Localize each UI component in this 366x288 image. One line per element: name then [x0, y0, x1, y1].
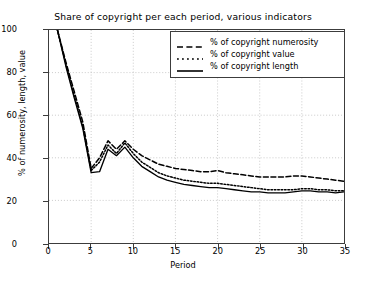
- y-tick-mark: [43, 158, 48, 159]
- y-tick-label: 100: [0, 24, 17, 34]
- x-tick-label: 25: [255, 246, 265, 256]
- y-tick-mark: [43, 201, 48, 202]
- y-tick-label: 20: [0, 196, 17, 206]
- legend-item-2: % of copyright length: [175, 60, 339, 72]
- legend-item-0: % of copyright numerosity: [175, 36, 339, 48]
- legend-label: % of copyright length: [210, 62, 298, 70]
- chart-figure: Share of copyright per each period, vari…: [0, 0, 366, 288]
- y-tick-mark: [43, 115, 48, 116]
- legend-swatch-dashed-icon: [175, 37, 205, 47]
- y-tick-label: 40: [0, 153, 17, 163]
- y-axis-label: % of numerosity, length, value: [17, 28, 27, 198]
- y-tick-label: 0: [0, 239, 17, 249]
- x-tick-label: 5: [88, 246, 93, 256]
- chart-title: Share of copyright per each period, vari…: [0, 11, 366, 22]
- x-tick-label: 20: [212, 246, 222, 256]
- x-tick-label: 30: [297, 246, 307, 256]
- legend-label: % of copyright numerosity: [210, 38, 318, 46]
- legend-swatch-dotted-icon: [175, 49, 205, 59]
- y-tick-mark: [43, 72, 48, 73]
- x-tick-label: 35: [340, 246, 350, 256]
- x-tick-label: 10: [128, 246, 138, 256]
- x-tick-label: 0: [45, 246, 50, 256]
- y-tick-label: 60: [0, 110, 17, 120]
- legend-swatch-solid-icon: [175, 61, 205, 71]
- x-axis-label: Period: [0, 260, 366, 270]
- y-tick-mark: [43, 29, 48, 30]
- x-tick-label: 15: [170, 246, 180, 256]
- y-tick-label: 80: [0, 67, 17, 77]
- legend-item-1: % of copyright value: [175, 48, 339, 60]
- chart-legend: % of copyright numerosity% of copyright …: [170, 31, 345, 78]
- legend-label: % of copyright value: [210, 50, 295, 58]
